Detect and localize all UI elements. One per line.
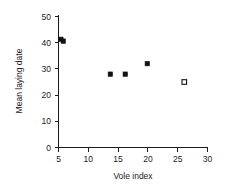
x-tick-label: 20 bbox=[143, 154, 153, 164]
scatter-chart-figure: 0 10 20 30 40 50 5 10 15 20 25 30 Vole i… bbox=[0, 0, 228, 187]
y-tick-label: 20 bbox=[42, 90, 52, 100]
data-point-open bbox=[182, 80, 187, 85]
x-tick-label: 5 bbox=[56, 154, 61, 164]
x-axis-title: Vole index bbox=[113, 171, 153, 181]
y-axis-ticks bbox=[55, 17, 59, 148]
plot-canvas: 0 10 20 30 40 50 5 10 15 20 25 30 Vole i… bbox=[0, 0, 228, 187]
x-tick-label: 25 bbox=[173, 154, 183, 164]
y-tick-label: 40 bbox=[42, 38, 52, 48]
data-point-filled bbox=[123, 72, 127, 76]
x-tick-label: 30 bbox=[203, 154, 213, 164]
data-point-filled bbox=[145, 61, 149, 65]
y-tick-label: 50 bbox=[42, 12, 52, 22]
x-axis-ticks bbox=[59, 148, 208, 152]
y-axis-title: Mean laying date bbox=[14, 48, 24, 113]
y-tick-label: 30 bbox=[42, 64, 52, 74]
data-point-group bbox=[59, 37, 187, 84]
x-tick-label: 10 bbox=[84, 154, 94, 164]
x-tick-label: 15 bbox=[113, 154, 123, 164]
y-tick-label: 0 bbox=[46, 143, 51, 153]
y-tick-labels: 0 10 20 30 40 50 bbox=[42, 12, 52, 153]
data-point-filled bbox=[108, 72, 112, 76]
y-tick-label: 10 bbox=[42, 116, 52, 126]
x-tick-labels: 5 10 15 20 25 30 bbox=[56, 154, 212, 164]
data-point-filled bbox=[61, 39, 65, 43]
